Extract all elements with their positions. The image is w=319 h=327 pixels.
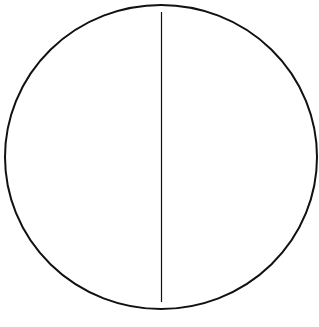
diagram-canvas — [0, 0, 319, 327]
